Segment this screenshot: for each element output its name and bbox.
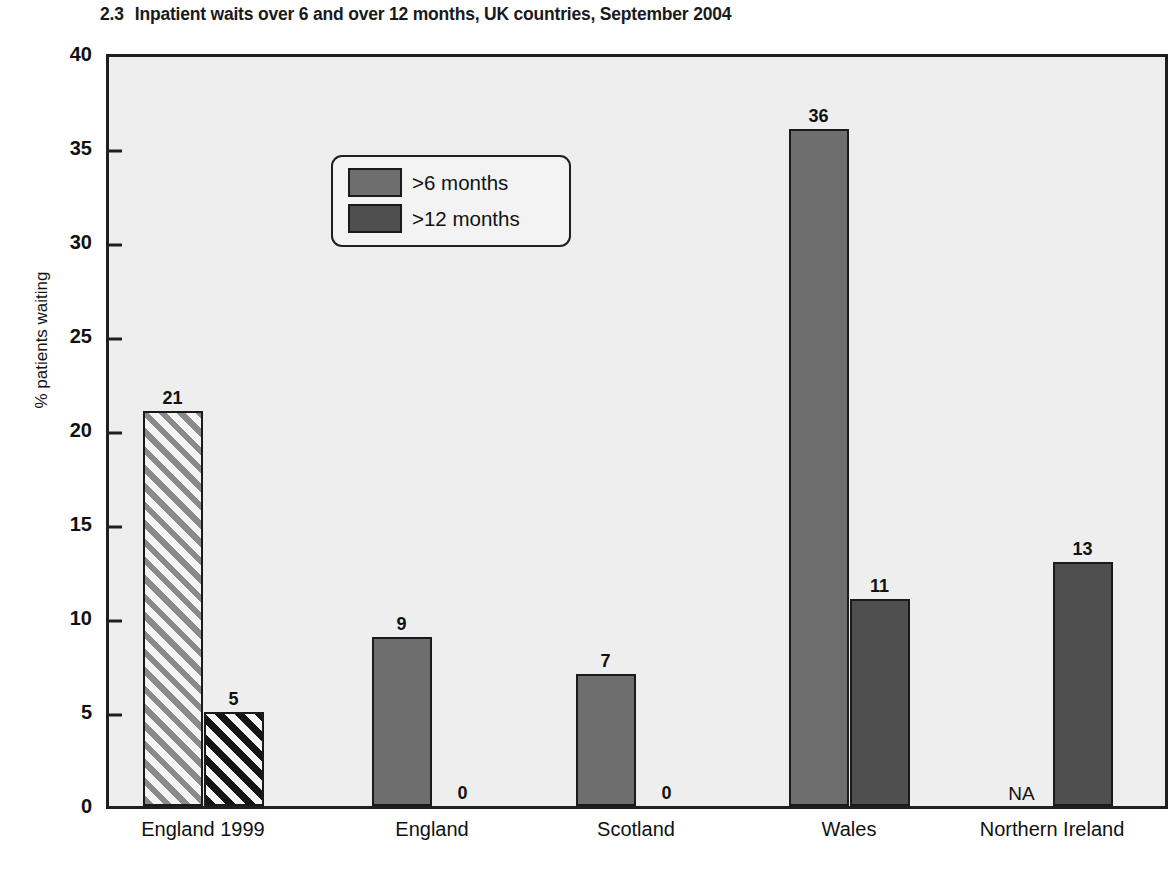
- y-tick-mark: [109, 526, 122, 529]
- y-tick-mark: [109, 620, 122, 623]
- bar-value-label: 21: [162, 388, 182, 409]
- bar: [1053, 562, 1113, 806]
- bar-value-label: 36: [808, 106, 828, 127]
- y-tick-label: 5: [32, 701, 92, 724]
- y-tick-label: 30: [32, 231, 92, 254]
- bar-value-label: 13: [1072, 539, 1092, 560]
- bar: [576, 674, 636, 806]
- chart-legend: >6 months >12 months: [331, 155, 571, 247]
- bar: [789, 129, 849, 806]
- plot-area: >6 months >12 months: [106, 54, 1168, 809]
- legend-swatch-6-months: [348, 168, 402, 197]
- x-axis-category-label: England 1999: [141, 818, 264, 841]
- y-tick-mark: [109, 338, 122, 341]
- bar-value-label: NA: [1008, 783, 1034, 805]
- y-tick-label: 35: [32, 137, 92, 160]
- bar: [372, 637, 432, 806]
- y-tick-mark: [109, 432, 122, 435]
- x-axis-category-label: Northern Ireland: [980, 818, 1125, 841]
- y-tick-label: 20: [32, 419, 92, 442]
- chart-title: 2.3Inpatient waits over 6 and over 12 mo…: [100, 4, 731, 25]
- legend-label-6-months: >6 months: [412, 171, 508, 195]
- y-tick-label: 40: [32, 43, 92, 66]
- y-tick-mark: [109, 150, 122, 153]
- y-tick-mark: [109, 244, 122, 247]
- y-tick-label: 25: [32, 325, 92, 348]
- x-axis-category-label: Wales: [822, 818, 877, 841]
- chart-title-text: Inpatient waits over 6 and over 12 month…: [135, 4, 732, 24]
- legend-swatch-12-months: [348, 204, 402, 233]
- y-tick-label: 15: [32, 513, 92, 536]
- bar: [143, 411, 203, 806]
- bar-value-label: 0: [457, 783, 467, 804]
- y-tick-mark: [109, 714, 122, 717]
- bar-value-label: 11: [870, 576, 889, 597]
- bar-value-label: 5: [228, 689, 238, 710]
- bar: [850, 599, 910, 806]
- bar-value-label: 9: [396, 614, 406, 635]
- bar-value-label: 0: [661, 783, 671, 804]
- bar: [204, 712, 264, 806]
- legend-label-12-months: >12 months: [412, 207, 520, 231]
- x-axis-category-label: England: [395, 818, 468, 841]
- bar-value-label: 7: [600, 651, 610, 672]
- y-tick-label: 10: [32, 607, 92, 630]
- legend-item-6-months: >6 months: [348, 168, 508, 197]
- legend-item-12-months: >12 months: [348, 204, 520, 233]
- x-axis-category-label: Scotland: [597, 818, 675, 841]
- y-tick-label: 0: [32, 795, 92, 818]
- chart-title-number: 2.3: [100, 4, 124, 24]
